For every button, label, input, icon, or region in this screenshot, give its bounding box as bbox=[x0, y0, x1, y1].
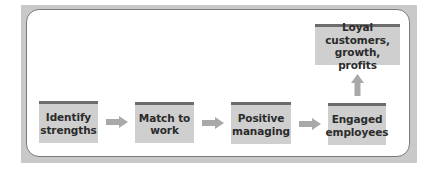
node-label-line1: Loyal customers, bbox=[315, 21, 400, 46]
node-label-line1: Positive bbox=[232, 112, 290, 125]
arrow-right-icon bbox=[299, 118, 321, 130]
node-positive-managing: Positive managing bbox=[231, 102, 291, 144]
node-identify-strengths: Identify strengths bbox=[39, 101, 98, 143]
node-label-line2: growth, profits bbox=[315, 46, 400, 71]
arrow-right-icon bbox=[202, 117, 224, 129]
arrow-right-icon bbox=[106, 116, 128, 128]
arrow-up-icon bbox=[351, 74, 364, 96]
node-label-line2: employees bbox=[326, 126, 389, 139]
node-label-line2: strengths bbox=[40, 124, 96, 137]
node-label-line2: work bbox=[139, 124, 190, 137]
node-match-to-work: Match to work bbox=[135, 102, 194, 143]
node-label-line1: Identify bbox=[40, 111, 96, 124]
node-loyal-customers: Loyal customers, growth, profits bbox=[315, 24, 400, 65]
node-label-line1: Engaged bbox=[326, 113, 389, 126]
node-label-line1: Match to bbox=[139, 112, 190, 125]
node-engaged-employees: Engaged employees bbox=[328, 103, 386, 145]
node-label-line2: managing bbox=[232, 125, 290, 138]
